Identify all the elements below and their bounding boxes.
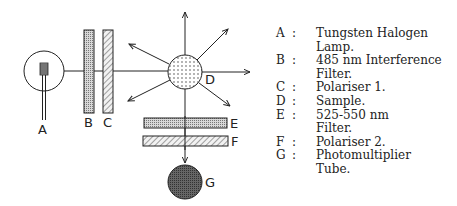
legend-row-b: B : 485 nm InterferenceFilter. — [276, 54, 457, 81]
legend-row-a: A : Tungsten HalogenLamp. — [276, 27, 457, 54]
legend-key: D — [276, 95, 292, 109]
legend-row-d: D : Sample. — [276, 95, 457, 109]
legend-desc: Tungsten HalogenLamp. — [316, 27, 457, 54]
detector-g — [168, 165, 202, 199]
legend-sep: : — [292, 109, 316, 136]
legend-sep: : — [292, 27, 316, 54]
legend-desc: PhotomultiplierTube. — [316, 149, 457, 176]
label-a: A — [38, 122, 47, 137]
legend-row-g: G : PhotomultiplierTube. — [276, 149, 457, 176]
legend-key: E — [276, 109, 292, 136]
label-c: C — [103, 115, 112, 130]
legend-row-e: E : 525-550 nmFilter. — [276, 109, 457, 136]
legend-desc: 525-550 nmFilter. — [316, 109, 457, 136]
label-d: D — [205, 72, 215, 87]
legend-key: C — [276, 81, 292, 95]
legend-key: A — [276, 27, 292, 54]
legend-desc: 485 nm InterferenceFilter. — [316, 54, 457, 81]
legend-sep: : — [292, 81, 316, 95]
legend-sep: : — [292, 136, 316, 150]
label-f: F — [231, 134, 238, 149]
legend: A : Tungsten HalogenLamp. B : 485 nm Int… — [276, 27, 457, 177]
legend-desc: Polariser 2. — [316, 136, 457, 150]
label-e: E — [230, 116, 238, 131]
legend-key: G — [276, 149, 292, 176]
legend-sep: : — [292, 149, 316, 176]
polariser-c — [103, 30, 113, 113]
fluorescence-polarisation-diagram: A B C D E F G — [0, 0, 270, 206]
legend-desc: Sample. — [316, 95, 457, 109]
legend-desc: Polariser 1. — [316, 81, 457, 95]
sample-d — [168, 55, 202, 89]
legend-sep: : — [292, 54, 316, 81]
lamp-component-a — [24, 51, 64, 120]
legend-key: B — [276, 54, 292, 81]
filter-b — [84, 30, 94, 113]
legend-row-c: C : Polariser 1. — [276, 81, 457, 95]
legend-sep: : — [292, 95, 316, 109]
label-g: G — [205, 175, 215, 190]
legend-row-f: F : Polariser 2. — [276, 136, 457, 150]
legend-key: F — [276, 136, 292, 150]
label-b: B — [84, 115, 93, 130]
